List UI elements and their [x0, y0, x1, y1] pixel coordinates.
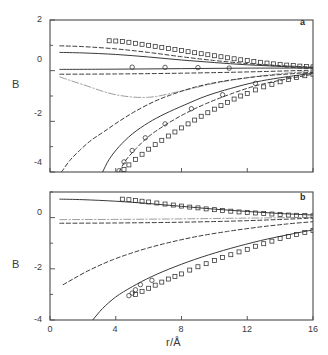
- ytick-b-1: -2: [14, 262, 42, 272]
- panel-a: [50, 20, 315, 173]
- ytick-b-2: 0: [18, 207, 42, 217]
- data-marker-square: [245, 59, 249, 63]
- data-marker-square: [180, 272, 184, 276]
- data-marker-square: [232, 57, 236, 61]
- data-marker-square: [186, 122, 190, 126]
- y-axis-title-panel-a: B: [12, 78, 20, 90]
- data-marker-square: [107, 39, 111, 43]
- data-marker-square: [120, 197, 124, 201]
- series-isolated-circles: [130, 65, 231, 70]
- xtick-2: 8: [171, 324, 191, 334]
- panel-b: [50, 192, 315, 320]
- data-marker-square: [160, 45, 164, 49]
- data-marker-square: [188, 268, 192, 272]
- ytick-a-1: -2: [14, 108, 42, 118]
- data-marker-square: [219, 55, 223, 59]
- data-marker-square: [245, 91, 249, 95]
- data-marker-square: [180, 48, 184, 52]
- data-marker-circle: [196, 65, 200, 69]
- data-marker-square: [226, 100, 230, 104]
- series-upper-solid: [60, 52, 313, 67]
- data-marker-square: [127, 163, 131, 167]
- data-marker-square: [127, 198, 131, 202]
- data-marker-square: [239, 94, 243, 98]
- series-lower-squares-b: [133, 228, 315, 296]
- data-marker-square: [262, 242, 266, 246]
- data-marker-square: [160, 280, 164, 284]
- ytick-a-2: 0: [18, 54, 42, 64]
- data-marker-square: [253, 88, 257, 92]
- ytick-a-0: -4: [14, 157, 42, 167]
- data-marker-square: [258, 60, 262, 64]
- series-near-zero-dashed: [60, 218, 313, 223]
- data-marker-square: [270, 82, 274, 86]
- data-marker-square: [193, 118, 197, 122]
- series-rising-solid-b: [93, 230, 313, 320]
- data-marker-square: [133, 41, 137, 45]
- xtick-0: 0: [40, 324, 60, 334]
- series-upper-squares-experimental: [107, 39, 315, 69]
- data-marker-square: [166, 46, 170, 50]
- figure-container: B B r/Å a b 2 0 -2 -4 0 -2 -4 0 4 8 12 1…: [0, 0, 328, 355]
- data-marker-square: [206, 53, 210, 57]
- series-lower-dashdot-light: [60, 71, 313, 97]
- xtick-3: 12: [237, 324, 257, 334]
- data-marker-square: [166, 277, 170, 281]
- data-marker-square: [173, 274, 177, 278]
- data-marker-square: [232, 97, 236, 101]
- data-marker-square: [212, 259, 216, 263]
- plot-canvas: [0, 0, 328, 355]
- series-near-zero-solid: [60, 68, 313, 69]
- data-marker-circle: [220, 93, 224, 97]
- data-marker-square: [160, 138, 164, 142]
- data-marker-square: [147, 147, 151, 151]
- x-axis-title: r/Å: [166, 336, 181, 348]
- data-marker-square: [147, 286, 151, 290]
- data-marker-square: [221, 208, 225, 212]
- series-upper-dashed-long: [60, 46, 313, 67]
- data-marker-square: [180, 126, 184, 130]
- data-marker-square: [173, 130, 177, 134]
- data-marker-square: [199, 52, 203, 56]
- data-marker-square: [252, 60, 256, 64]
- data-marker-square: [140, 42, 144, 46]
- data-marker-square: [153, 44, 157, 48]
- data-marker-square: [219, 104, 223, 108]
- panel-label-a: a: [300, 17, 305, 27]
- ytick-b-0: -4: [14, 314, 42, 324]
- data-marker-square: [229, 253, 233, 257]
- data-marker-square: [147, 43, 151, 47]
- data-marker-square: [153, 283, 157, 287]
- xtick-4: 16: [303, 324, 323, 334]
- data-marker-square: [127, 40, 131, 44]
- series-lower-squares-experimental: [122, 72, 315, 171]
- data-marker-square: [221, 256, 225, 260]
- series-lower-circles-experimental: [117, 81, 258, 173]
- series-top-squares-experimental: [120, 197, 315, 218]
- data-marker-square: [193, 51, 197, 55]
- panel-label-b: b: [300, 192, 306, 202]
- data-marker-square: [196, 265, 200, 269]
- data-marker-square: [166, 134, 170, 138]
- data-marker-circle: [138, 282, 142, 286]
- series-group-a: [60, 39, 315, 173]
- data-marker-square: [114, 39, 118, 43]
- series-group-b: [60, 197, 315, 320]
- data-marker-square: [133, 157, 137, 161]
- data-marker-square: [153, 143, 157, 147]
- xtick-1: 4: [105, 324, 125, 334]
- series-near-zero-dashed: [60, 70, 313, 74]
- series-rising-dashed-b: [63, 222, 313, 285]
- data-marker-circle: [133, 288, 137, 292]
- data-marker-square: [262, 85, 266, 89]
- data-marker-square: [140, 152, 144, 156]
- data-marker-square: [237, 250, 241, 254]
- data-marker-square: [226, 56, 230, 60]
- data-marker-square: [253, 244, 257, 248]
- data-marker-square: [204, 262, 208, 266]
- data-marker-square: [120, 40, 124, 44]
- data-marker-square: [173, 47, 177, 51]
- plot-frame-a: [50, 20, 313, 172]
- series-top-solid-descending: [60, 199, 313, 215]
- data-marker-square: [245, 247, 249, 251]
